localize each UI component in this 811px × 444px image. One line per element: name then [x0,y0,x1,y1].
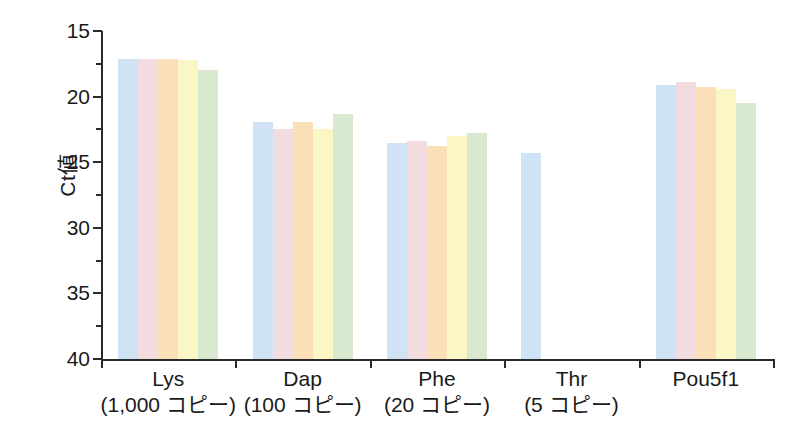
y-axis-tick-label: 20 [44,86,90,107]
bar-group [521,31,621,359]
y-axis-tick-label: 30 [44,217,90,238]
bar [293,122,313,359]
bar [138,59,158,359]
bar [178,60,198,359]
bar [158,59,178,359]
bar [736,103,756,359]
bar [656,85,676,359]
bar [447,136,467,359]
x-axis-group-sublabel: (5 コピー) [474,392,668,418]
bar-group [387,31,487,359]
bar [387,143,407,359]
y-axis-tick-label: 15 [44,20,90,41]
bar [696,87,716,359]
plot-area [101,31,773,359]
bar [273,129,293,359]
bar [333,114,353,359]
bar [118,59,138,359]
bar [253,122,273,359]
y-axis-tick-label: 25 [44,151,90,172]
bar [467,133,487,359]
bar [676,82,696,359]
bar [716,89,736,359]
y-axis-tick-label: 35 [44,282,90,303]
bar [521,153,541,359]
bar-group [656,31,756,359]
ct-value-bar-chart: Ct値 152025303540 Lys(1,000 コピー)Dap(100 コ… [0,0,811,444]
bar-group [118,31,218,359]
bar [407,141,427,359]
bar-group [253,31,353,359]
bar [427,146,447,359]
x-axis-group-name: Pou5f1 [609,366,803,392]
x-axis-line [101,359,773,361]
bar [198,70,218,359]
x-axis-group-label: Pou5f1 [609,366,803,392]
bar [313,129,333,359]
